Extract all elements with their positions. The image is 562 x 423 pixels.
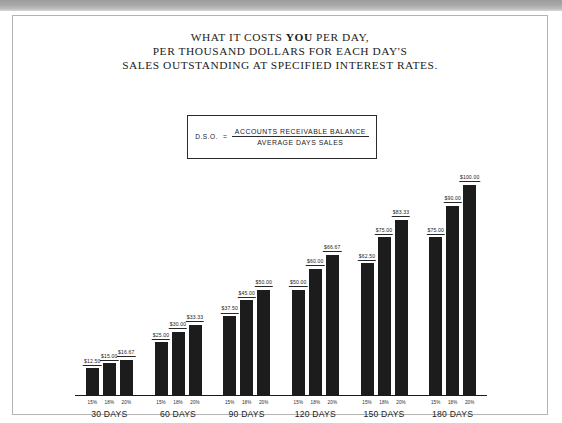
rate-tick-label: 18% xyxy=(103,400,116,405)
rate-tick-label: 20% xyxy=(257,400,270,405)
bar-column[interactable]: $83.33 xyxy=(395,185,408,395)
bar[interactable] xyxy=(292,290,305,395)
title-line-1-emphasis: YOU xyxy=(286,31,313,43)
bar-column[interactable]: $50.00 xyxy=(292,185,305,395)
rate-tick-label: 15% xyxy=(429,400,442,405)
bar[interactable] xyxy=(309,269,322,395)
bar-value-label: $60.00 xyxy=(306,258,324,266)
bar-column[interactable]: $62.50 xyxy=(361,185,374,395)
bar-column[interactable]: $12.50 xyxy=(86,185,99,395)
bar-column[interactable]: $100.00 xyxy=(463,185,476,395)
bar[interactable] xyxy=(463,185,476,395)
bar-value-label: $30.00 xyxy=(169,321,187,329)
formula-fraction: ACCOUNTS RECEIVABLE BALANCE AVERAGE DAYS… xyxy=(232,128,369,146)
bar-column[interactable]: $37.50 xyxy=(223,185,236,395)
formula-equals-sign: = xyxy=(223,133,227,140)
rate-tick-label: 20% xyxy=(189,400,202,405)
dso-formula: D.S.O. = ACCOUNTS RECEIVABLE BALANCE AVE… xyxy=(195,128,369,146)
bar[interactable] xyxy=(103,363,116,395)
bar-column[interactable]: $33.33 xyxy=(189,185,202,395)
page-title: WHAT IT COSTS YOU PER DAY, PER THOUSAND … xyxy=(13,30,547,73)
bar-value-label: $12.50 xyxy=(83,358,101,366)
rate-tick-label: 20% xyxy=(395,400,408,405)
bar-column[interactable]: $16.67 xyxy=(120,185,133,395)
bar[interactable] xyxy=(361,263,374,394)
interest-rate-tick-labels: 15%18%20%15%18%20%15%18%20%15%18%20%15%1… xyxy=(75,400,487,409)
bar-group-bars: $12.50$15.00$16.67 xyxy=(86,185,133,395)
bar-column[interactable]: $25.00 xyxy=(155,185,168,395)
formula-denominator: AVERAGE DAYS SALES xyxy=(257,137,343,146)
scanner-edge-band xyxy=(0,0,562,11)
bar[interactable] xyxy=(395,220,408,395)
bar-value-label: $83.33 xyxy=(392,209,410,217)
rate-tick-label: 15% xyxy=(361,400,374,405)
bar-value-label: $90.00 xyxy=(443,195,461,203)
bar[interactable] xyxy=(429,237,442,395)
bar[interactable] xyxy=(446,206,459,395)
day-group-label: 120 DAYS xyxy=(281,409,350,419)
rate-tick-group: 15%18%20% xyxy=(223,400,270,405)
bar-column[interactable]: $30.00 xyxy=(172,185,185,395)
bar-group: $62.50$75.00$83.33 xyxy=(361,185,408,395)
day-group-label: 150 DAYS xyxy=(350,409,419,419)
dso-formula-box: D.S.O. = ACCOUNTS RECEIVABLE BALANCE AVE… xyxy=(187,115,377,159)
bar[interactable] xyxy=(120,360,133,395)
day-group-labels: 30 DAYS60 DAYS90 DAYS120 DAYS150 DAYS180… xyxy=(75,409,487,423)
bar-value-label: $50.00 xyxy=(289,279,307,287)
rate-tick-group: 15%18%20% xyxy=(361,400,408,405)
title-line-2: PER THOUSAND DOLLARS FOR EACH DAY'S xyxy=(13,44,547,58)
bar[interactable] xyxy=(326,255,339,395)
document-page: WHAT IT COSTS YOU PER DAY, PER THOUSAND … xyxy=(12,15,548,415)
bar-column[interactable]: $15.00 xyxy=(103,185,116,395)
bar-value-label: $100.00 xyxy=(459,174,480,182)
day-group-label: 180 DAYS xyxy=(418,409,487,419)
rate-tick-group: 15%18%20% xyxy=(429,400,476,405)
bar-value-label: $45.00 xyxy=(237,290,255,298)
bar[interactable] xyxy=(172,332,185,395)
rate-tick-label: 15% xyxy=(223,400,236,405)
rate-tick-label: 20% xyxy=(463,400,476,405)
bar[interactable] xyxy=(86,368,99,394)
bar-column[interactable]: $90.00 xyxy=(446,185,459,395)
day-group-label: 90 DAYS xyxy=(212,409,281,419)
bar[interactable] xyxy=(189,325,202,395)
bar[interactable] xyxy=(257,290,270,395)
rate-tick-label: 15% xyxy=(86,400,99,405)
rate-tick-group: 15%18%20% xyxy=(155,400,202,405)
rate-tick-label: 18% xyxy=(309,400,322,405)
rate-tick-label: 18% xyxy=(240,400,253,405)
rate-tick-group: 15%18%20% xyxy=(292,400,339,405)
title-line-1-suffix: PER DAY, xyxy=(313,31,370,43)
bar[interactable] xyxy=(240,300,253,395)
bar[interactable] xyxy=(378,237,391,395)
bar-column[interactable]: $75.00 xyxy=(378,185,391,395)
chart-baseline-axis xyxy=(75,395,487,396)
bar-group-bars: $25.00$30.00$33.33 xyxy=(155,185,202,395)
bar-value-label: $37.50 xyxy=(220,305,238,313)
rate-tick-label: 18% xyxy=(378,400,391,405)
rate-tick-label: 20% xyxy=(326,400,339,405)
bar-column[interactable]: $45.00 xyxy=(240,185,253,395)
bar[interactable] xyxy=(223,316,236,395)
bar[interactable] xyxy=(155,342,168,395)
bar-group: $75.00$90.00$100.00 xyxy=(429,185,476,395)
title-line-3: SALES OUTSTANDING AT SPECIFIED INTEREST … xyxy=(13,58,547,72)
bar-group: $25.00$30.00$33.33 xyxy=(155,185,202,395)
bar-group: $37.50$45.00$50.00 xyxy=(223,185,270,395)
bar-column[interactable]: $66.67 xyxy=(326,185,339,395)
day-group-label: 30 DAYS xyxy=(75,409,144,419)
bar-value-label: $15.00 xyxy=(100,353,118,361)
bar-column[interactable]: $75.00 xyxy=(429,185,442,395)
bar-value-label: $75.00 xyxy=(375,227,393,235)
bar-column[interactable]: $60.00 xyxy=(309,185,322,395)
bar-group-bars: $37.50$45.00$50.00 xyxy=(223,185,270,395)
bar-value-label: $66.67 xyxy=(323,244,341,252)
bar-value-label: $33.33 xyxy=(186,314,204,322)
bar-column[interactable]: $50.00 xyxy=(257,185,270,395)
title-line-1-prefix: WHAT IT COSTS xyxy=(191,31,286,43)
rate-tick-group: 15%18%20% xyxy=(86,400,133,405)
rate-tick-label: 18% xyxy=(446,400,459,405)
rate-tick-label: 15% xyxy=(292,400,305,405)
title-line-1: WHAT IT COSTS YOU PER DAY, xyxy=(13,30,547,44)
bar-group-bars: $62.50$75.00$83.33 xyxy=(361,185,408,395)
